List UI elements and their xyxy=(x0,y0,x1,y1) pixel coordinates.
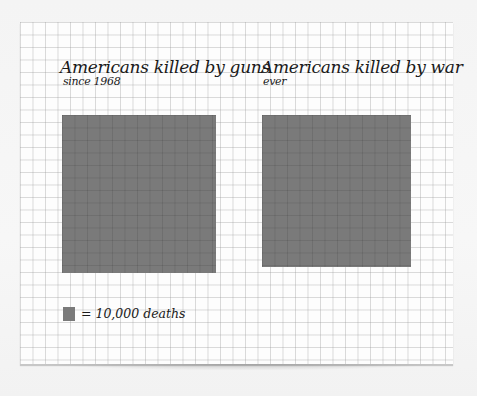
legend-label: = 10,000 deaths xyxy=(81,306,186,321)
guns-title: Americans killed by guns xyxy=(60,59,270,76)
legend-swatch xyxy=(63,307,75,321)
guns-subtitle: since 1968 xyxy=(63,76,120,87)
graph-paper: Americans killed by guns since 1968 Amer… xyxy=(20,22,453,364)
war-deaths-block xyxy=(262,115,411,267)
war-subtitle: ever xyxy=(263,76,286,87)
war-title: Americans killed by war xyxy=(261,59,463,76)
guns-deaths-block xyxy=(62,115,216,273)
